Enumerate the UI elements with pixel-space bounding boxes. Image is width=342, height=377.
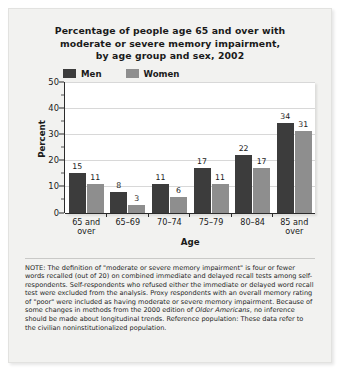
x-category-label-4: 80–84	[232, 218, 274, 237]
bar-value-label: 11	[155, 173, 165, 182]
y-tick-mark-50	[59, 81, 64, 82]
y-tick-label-10: 10	[48, 181, 59, 191]
bar-value-label: 31	[298, 120, 308, 129]
chart-title: Percentage of people age 65 and over wit…	[9, 9, 331, 63]
y-tick-mark-0	[59, 212, 64, 213]
bar-men-1: 8	[110, 192, 127, 213]
y-tick-label-50: 50	[48, 77, 59, 87]
x-category-label-3: 75–79	[190, 218, 232, 237]
bar-group-3: 1711	[190, 82, 232, 213]
bar-value-label: 3	[134, 194, 139, 203]
x-category-label-5: 85 and over	[273, 218, 315, 237]
y-tick-mark-30	[59, 133, 64, 134]
legend-label-men: Men	[81, 69, 102, 79]
bar-group-2: 116	[149, 82, 191, 213]
y-tick-mark-minor-15	[61, 173, 64, 174]
bar-group-1: 83	[107, 82, 149, 213]
bar-value-label: 15	[72, 162, 82, 171]
y-tick-mark-minor-45	[61, 94, 64, 95]
y-tick-mark-40	[59, 107, 64, 108]
bar-women-5: 31	[295, 131, 312, 212]
bar-women-0: 11	[87, 184, 104, 213]
note-italic-publication: Older Americans	[195, 306, 250, 314]
y-axis-tick-labels: 01020304050	[41, 82, 63, 213]
x-tick-mark-4	[272, 213, 273, 217]
bar-women-4: 17	[253, 168, 270, 213]
x-axis-label: Age	[65, 237, 315, 247]
bar-women-1: 3	[128, 205, 145, 213]
x-tick-mark-2	[189, 213, 190, 217]
x-tick-mark-1	[148, 213, 149, 217]
bar-value-label: 17	[257, 157, 267, 166]
chart-title-line-3: by age group and sex, 2002	[31, 50, 309, 63]
y-tick-label-20: 20	[48, 155, 59, 165]
y-tick-mark-minor-35	[61, 120, 64, 121]
chart-title-line-2: moderate or severe memory impairment,	[31, 38, 309, 51]
bar-value-label: 11	[90, 173, 100, 182]
y-tick-mark-10	[59, 186, 64, 187]
chart-note: NOTE: The definition of "moderate or sev…	[25, 258, 315, 333]
y-tick-label-40: 40	[48, 103, 59, 113]
x-category-label-2: 70–74	[149, 218, 191, 237]
bars-layer: 151183116171122173431	[65, 82, 315, 213]
bar-value-label: 22	[239, 144, 249, 153]
x-tick-mark-0	[106, 213, 107, 217]
bar-men-4: 22	[235, 155, 252, 213]
bar-men-5: 34	[277, 123, 294, 212]
bar-group-4: 2217	[232, 82, 274, 213]
legend-item-women: Women	[126, 69, 180, 79]
legend-label-women: Women	[144, 69, 180, 79]
x-tick-mark-3	[231, 213, 232, 217]
x-axis-category-labels: 65 and over65–6970–7475–7980–8485 and ov…	[65, 218, 315, 237]
bar-group-0: 1511	[65, 82, 107, 213]
bar-women-2: 6	[170, 197, 187, 213]
bar-value-label: 17	[197, 157, 207, 166]
plot-wrapper: Percent 01020304050 15118311617112217343…	[27, 82, 317, 254]
x-category-label-0: 65 and over	[65, 218, 107, 237]
y-tick-mark-20	[59, 160, 64, 161]
legend-swatch-women-icon	[126, 69, 139, 78]
bar-men-3: 17	[194, 168, 211, 213]
bar-men-2: 11	[152, 184, 169, 213]
x-category-label-1: 65–69	[107, 218, 149, 237]
bar-value-label: 8	[116, 181, 121, 190]
bar-group-5: 3431	[273, 82, 315, 213]
y-tick-mark-minor-25	[61, 147, 64, 148]
bar-men-0: 15	[69, 173, 86, 212]
bar-value-label: 34	[280, 112, 290, 121]
bar-women-3: 11	[212, 184, 229, 213]
figure-card: Percentage of people age 65 and over wit…	[8, 8, 332, 363]
chart-title-line-1: Percentage of people age 65 and over wit…	[31, 25, 309, 38]
bar-value-label: 11	[215, 173, 225, 182]
legend-swatch-men-icon	[63, 69, 76, 78]
bar-value-label: 6	[176, 186, 181, 195]
y-tick-mark-minor-5	[61, 199, 64, 200]
y-tick-label-30: 30	[48, 129, 59, 139]
plot-area: 151183116171122173431	[65, 82, 315, 214]
legend-item-men: Men	[63, 69, 102, 79]
